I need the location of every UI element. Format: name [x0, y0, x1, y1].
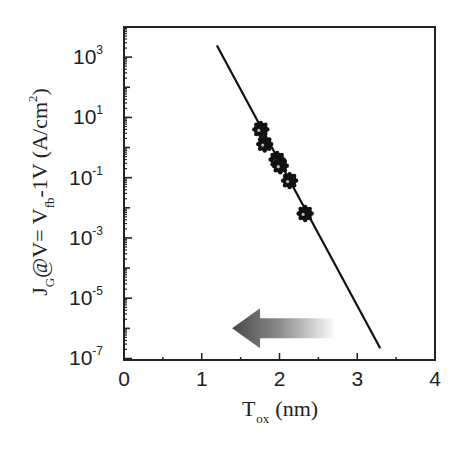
- data-point-marker: [252, 121, 269, 138]
- x-tick-label: 4: [429, 367, 441, 390]
- y-tick-label: 10-5: [69, 284, 103, 309]
- x-axis-ticks: [124, 353, 435, 360]
- y-axis-tick-labels: 10310110-110-310-510-7: [69, 43, 103, 369]
- y-axis-ticks: [124, 27, 132, 360]
- y-tick-label: 10-3: [69, 224, 103, 249]
- y-tick-label: 101: [73, 103, 103, 128]
- data-point-marker: [281, 172, 298, 189]
- data-point-marker: [272, 157, 289, 174]
- y-tick-label: 10-1: [69, 164, 103, 189]
- x-tick-label: 1: [196, 367, 208, 390]
- x-axis-tick-labels: 01234: [118, 367, 441, 390]
- scaling-arrow-icon: [232, 308, 336, 348]
- x-tick-label: 0: [118, 367, 130, 390]
- data-point-marker: [256, 135, 273, 152]
- chart: 01234 10310110-110-310-510-7 Tox(nm) JG@…: [0, 0, 461, 453]
- fit-line: [217, 46, 379, 347]
- plot-frame: [124, 27, 435, 360]
- x-axis-title: Tox(nm): [242, 396, 318, 426]
- x-tick-label: 3: [351, 367, 363, 390]
- data-point-marker: [296, 205, 313, 222]
- y-axis-title: JG@V= Vfb-1V (A/cm2): [25, 88, 57, 296]
- y-tick-label: 10-7: [69, 344, 103, 369]
- data-markers: [252, 121, 314, 222]
- y-tick-label: 103: [73, 43, 103, 68]
- x-tick-label: 2: [274, 367, 286, 390]
